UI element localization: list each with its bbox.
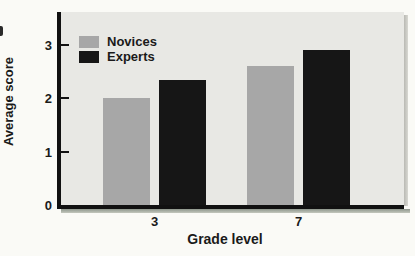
experts-swatch xyxy=(79,51,99,63)
y-tick-mark-2 xyxy=(61,97,69,99)
legend-label-novices: Novices xyxy=(107,35,157,48)
bar-group-grade-7 xyxy=(247,50,350,205)
novices-swatch xyxy=(79,36,99,48)
bar-group-grade-3 xyxy=(103,80,206,205)
y-tick-label-3: 3 xyxy=(22,39,52,52)
legend-label-experts: Experts xyxy=(107,50,155,63)
plot-shadow-bottom xyxy=(61,209,410,213)
legend-item-experts: Experts xyxy=(79,49,157,64)
y-tick-label-2: 2 xyxy=(22,92,52,105)
bar-novices-grade-7 xyxy=(247,66,294,205)
y-tick-label-1: 1 xyxy=(22,146,52,159)
y-tick-mark-3 xyxy=(61,44,69,46)
y-axis-title: Average score xyxy=(1,52,16,152)
legend-item-novices: Novices xyxy=(79,34,157,49)
edge-artifact-mark xyxy=(0,26,3,36)
y-tick-mark-1 xyxy=(61,151,69,153)
bar-novices-grade-3 xyxy=(103,98,150,205)
x-tick-label-7: 7 xyxy=(269,214,329,229)
x-axis-line xyxy=(57,205,404,209)
plot-shadow-right xyxy=(404,15,408,206)
bar-experts-grade-7 xyxy=(303,50,350,205)
bar-experts-grade-3 xyxy=(159,80,206,205)
y-tick-label-0: 0 xyxy=(22,199,52,212)
x-tick-label-3: 3 xyxy=(125,214,185,229)
y-axis-line xyxy=(57,12,61,209)
legend: Novices Experts xyxy=(79,34,157,64)
x-axis-title: Grade level xyxy=(155,231,295,247)
plot-area: Novices Experts xyxy=(61,12,404,205)
figure-page: { "figure": { "page_background": "#fafaf… xyxy=(0,0,415,256)
